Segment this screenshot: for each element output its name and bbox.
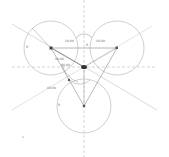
tangent-point <box>68 79 70 81</box>
center-point-top-left <box>50 47 53 50</box>
angle-label: 60.00 <box>96 40 105 43</box>
angle-label: 60.00 <box>47 87 56 90</box>
line-tr-to-center <box>84 48 117 67</box>
geometry-drawing: 60.00 60.00 60.00 60.00 60.00 R R R x <box>0 0 169 157</box>
radius-label: R <box>58 104 60 107</box>
radius-line-top-left <box>32 28 51 48</box>
drawing-svg <box>0 0 169 157</box>
center-point-middle <box>81 65 87 69</box>
radius-label: R <box>86 44 88 47</box>
center-point-top-right <box>116 47 119 50</box>
angle-label: 60.00 <box>65 40 74 43</box>
angle-label: 60.00 <box>55 58 64 61</box>
angle-arc-bottom <box>70 80 90 84</box>
angle-label: 60.00 <box>61 64 70 67</box>
axis-marker-label: x <box>22 136 24 139</box>
center-point-bottom <box>83 105 85 107</box>
radius-label: R <box>26 46 28 49</box>
